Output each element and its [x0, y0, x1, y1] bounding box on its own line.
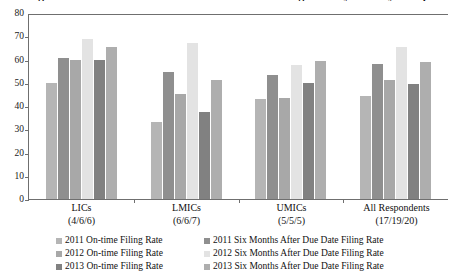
- x-axis-label: All Respondents(17/19/20): [344, 202, 449, 227]
- y-axis-tick-mark: [25, 200, 29, 201]
- legend-label: 2011 On-time Filing Rate: [65, 235, 163, 246]
- y-axis-tick-label: 80: [2, 9, 24, 19]
- legend-item[interactable]: 2012 On-time Filing Rate: [56, 248, 204, 259]
- bar: [303, 83, 314, 199]
- x-axis-label-counts: (17/19/20): [344, 215, 449, 228]
- bar: [58, 58, 69, 199]
- bar: [94, 60, 105, 200]
- chart-title: Figure 3. On-time and Six Months After D…: [28, 0, 448, 1]
- bar: [175, 94, 186, 199]
- legend-label: 2013 On-time Filing Rate: [65, 261, 163, 272]
- legend-swatch: [204, 251, 210, 257]
- y-axis-tick-label: 60: [2, 56, 24, 66]
- bar: [267, 75, 278, 199]
- bar: [396, 47, 407, 199]
- legend-label: 2011 Six Months After Due Date Filing Ra…: [213, 235, 383, 246]
- bar: [255, 99, 266, 199]
- bar: [408, 84, 419, 199]
- x-axis-label: LICs(4/6/6): [29, 202, 134, 227]
- x-axis-label-counts: (4/6/6): [29, 215, 134, 228]
- bar: [211, 80, 222, 199]
- figure-container: Figure 3. On-time and Six Months After D…: [0, 0, 457, 274]
- bar: [82, 39, 93, 199]
- legend-label: 2012 Six Months After Due Date Filing Ra…: [213, 248, 384, 259]
- legend-label: 2012 On-time Filing Rate: [65, 248, 163, 259]
- bar: [151, 122, 162, 199]
- bar-groups: [29, 14, 448, 199]
- bar: [187, 43, 198, 199]
- y-axis-tick-label: 30: [2, 125, 24, 135]
- bar: [106, 47, 117, 199]
- bar: [384, 80, 395, 199]
- y-axis-tick-label: 10: [2, 172, 24, 182]
- bar-group: [29, 14, 134, 199]
- legend-swatch: [204, 238, 210, 244]
- legend-swatch: [204, 264, 210, 270]
- legend-item[interactable]: 2012 Six Months After Due Date Filing Ra…: [204, 248, 424, 259]
- legend-item[interactable]: 2013 Six Months After Due Date Filing Ra…: [204, 261, 424, 272]
- legend-swatch: [56, 264, 62, 270]
- bar-group: [343, 14, 448, 199]
- legend-label: 2013 Six Months After Due Date Filing Ra…: [213, 261, 384, 272]
- y-axis-tick-label: 50: [2, 79, 24, 89]
- bar: [420, 62, 431, 199]
- legend-swatch: [56, 238, 62, 244]
- plot-area: 01020304050607080: [28, 14, 448, 200]
- chart-legend: 2011 On-time Filing Rate2011 Six Months …: [56, 234, 424, 273]
- x-axis-label: UMICs(5/5/5): [239, 202, 344, 227]
- y-axis-tick-label: 20: [2, 149, 24, 159]
- bar: [279, 98, 290, 199]
- bar: [70, 60, 81, 200]
- bar: [372, 64, 383, 199]
- bar-group: [239, 14, 344, 199]
- x-axis-label-counts: (6/6/7): [134, 215, 239, 228]
- bar: [360, 96, 371, 199]
- x-axis-label-name: LICs: [72, 202, 92, 213]
- bar: [163, 72, 174, 199]
- y-axis-tick-label: 70: [2, 32, 24, 42]
- legend-item[interactable]: 2011 On-time Filing Rate: [56, 235, 204, 246]
- x-axis-label-counts: (5/5/5): [239, 215, 344, 228]
- legend-item[interactable]: 2013 On-time Filing Rate: [56, 261, 204, 272]
- bar-group: [134, 14, 239, 199]
- bar: [46, 83, 57, 199]
- x-axis-labels: LICs(4/6/6)LMICs(6/6/7)UMICs(5/5/5)All R…: [29, 202, 449, 227]
- x-axis-label: LMICs(6/6/7): [134, 202, 239, 227]
- x-axis-label-name: All Respondents: [363, 202, 429, 213]
- bar: [315, 61, 326, 199]
- y-axis-tick-label: 40: [2, 102, 24, 112]
- y-axis-tick-label: 0: [2, 195, 24, 205]
- bar: [291, 65, 302, 199]
- bar: [199, 112, 210, 199]
- legend-item[interactable]: 2011 Six Months After Due Date Filing Ra…: [204, 235, 424, 246]
- x-axis-label-name: UMICs: [276, 202, 306, 213]
- x-axis-label-name: LMICs: [172, 202, 201, 213]
- legend-swatch: [56, 251, 62, 257]
